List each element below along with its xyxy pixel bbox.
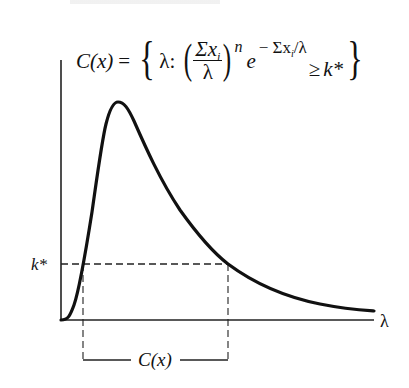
interval-label: C(x) (138, 349, 172, 371)
k-star-label: k* (31, 255, 48, 274)
likelihood-diagram: k* λ C(x) (0, 0, 409, 388)
lambda-axis-label: λ (380, 311, 389, 331)
likelihood-curve (61, 102, 374, 320)
